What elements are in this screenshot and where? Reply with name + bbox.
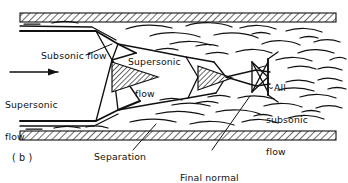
figure-panel-b: Subsonic flow Supersonic flow Supersonic… — [0, 0, 348, 183]
label-center-supersonic: Supersonic — [128, 57, 181, 68]
label-subsonic-flow: Subsonic flow — [41, 51, 107, 62]
right-arrow-icon — [10, 69, 58, 76]
oblique-shock-diamond-2 — [186, 57, 270, 98]
label-center-flow: flow — [135, 89, 155, 100]
label-all-subsonic-line3: flow — [266, 147, 308, 158]
label-final-shock-line1: Final normal — [180, 173, 239, 183]
oblique-shock-diamond-1 — [96, 31, 158, 121]
label-all-subsonic-line2: subsonic — [266, 115, 308, 126]
label-all-subsonic-flow: ~All subsonic flow — [266, 62, 308, 179]
label-supersonic-inlet-line1: Supersonic — [5, 100, 58, 111]
panel-label: ( b ) — [12, 153, 32, 164]
label-separation: Separation — [94, 152, 146, 163]
label-all-subsonic-line1: ~All — [266, 83, 308, 94]
label-supersonic-inlet-line2: flow — [5, 132, 58, 143]
label-final-normal-shock: Final normal shock — [180, 152, 239, 183]
upper-wall — [20, 13, 336, 22]
